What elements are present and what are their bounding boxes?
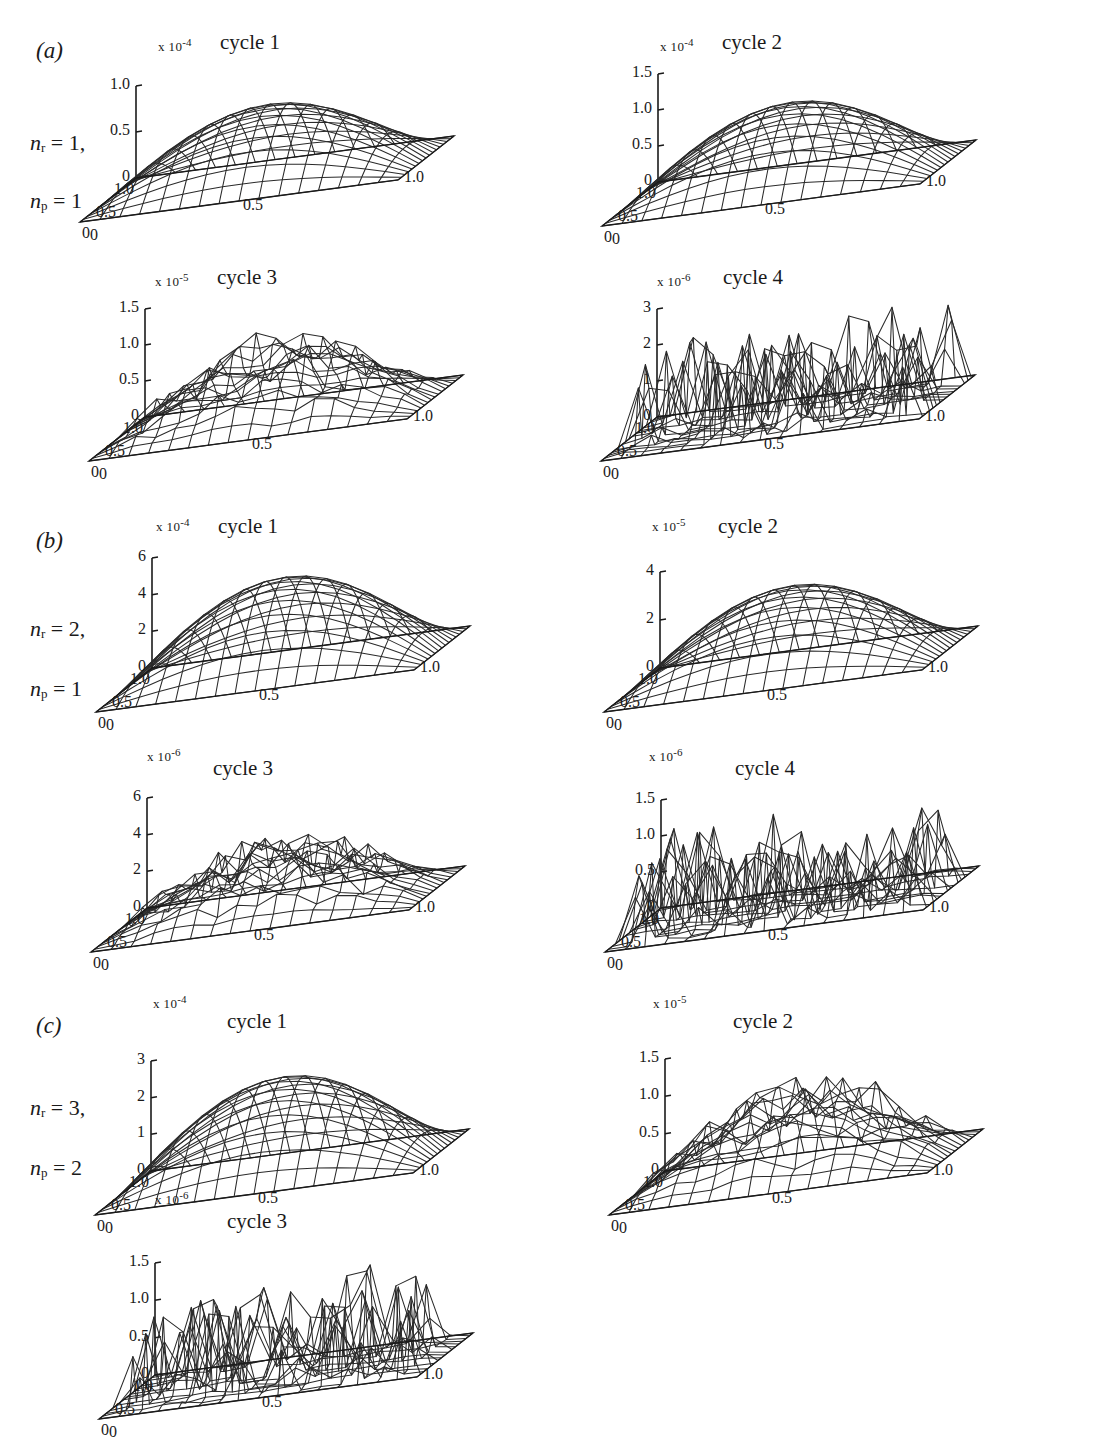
x-tick-label-left: 0.5 xyxy=(81,442,125,460)
variable-value: = 1, xyxy=(51,130,85,155)
x-tick-label-left: 0.5 xyxy=(88,693,132,711)
z-tick-label: 1.0 xyxy=(605,825,655,843)
x-tick-label-left: 0 xyxy=(576,230,620,248)
panel-tag-a: (a) xyxy=(36,38,63,64)
x-tick-label-left: 0 xyxy=(579,956,623,974)
variable-symbol: n xyxy=(30,130,41,155)
x-tick-label-left: 1.0 xyxy=(90,180,134,198)
variable-value: = 1 xyxy=(53,188,82,213)
x-tick-label-right: 0 xyxy=(611,1217,619,1235)
z-axis xyxy=(145,308,151,417)
z-tick-label: 1.0 xyxy=(609,1085,659,1103)
x-tick-label-right: 0.5 xyxy=(254,926,274,944)
surface-mesh xyxy=(565,742,1015,962)
row-label-np-2: np = 2 xyxy=(30,1155,82,1181)
z-tick-label: 1.0 xyxy=(602,99,652,117)
row-label-nr-0: nr = 1, xyxy=(30,130,85,156)
x-tick-label-right: 1.0 xyxy=(404,168,424,186)
z-tick-label: 1.5 xyxy=(602,63,652,81)
x-tick-label-left: 0.5 xyxy=(91,1400,135,1418)
variable-subscript: p xyxy=(41,686,48,701)
z-tick-label: 3 xyxy=(95,1050,145,1068)
variable-value: = 2 xyxy=(53,1155,82,1180)
x-tick-label-right: 1.0 xyxy=(420,658,440,676)
x-tick-label-left: 0 xyxy=(54,226,98,244)
x-tick-label-left: 1.0 xyxy=(614,670,658,688)
variable-value: = 3, xyxy=(51,1095,85,1120)
row-label-nr-1: nr = 2, xyxy=(30,616,85,642)
x-tick-label-right: 1.0 xyxy=(419,1161,439,1179)
variable-symbol: n xyxy=(30,1095,41,1120)
z-axis xyxy=(136,85,142,178)
variable-symbol: n xyxy=(30,616,41,641)
z-tick-label: 0.5 xyxy=(99,1327,149,1345)
x-tick-label-left: 0 xyxy=(63,465,107,483)
z-tick-label: 0.5 xyxy=(602,135,652,153)
surface-plot-a3: x 10-5cycle 31.51.00.501.00.5000.51.0 xyxy=(55,265,495,480)
surface-plot-c3: x 10-6cycle 31.51.00.501.00.5000.51.0 xyxy=(55,1185,505,1415)
variable-subscript: p xyxy=(41,198,48,213)
z-tick-label: 2 xyxy=(91,860,141,878)
x-tick-label-right: 0.5 xyxy=(765,200,785,218)
panel-tag-b: (b) xyxy=(36,528,63,554)
x-tick-label-left: 0 xyxy=(575,465,619,483)
x-tick-label-left: 0.5 xyxy=(594,207,638,225)
z-axis xyxy=(660,571,666,668)
z-tick-label: 6 xyxy=(91,787,141,805)
x-tick-label-right: 0 xyxy=(82,224,90,242)
z-tick-label: 1.5 xyxy=(89,298,139,316)
x-tick-label-left: 0 xyxy=(70,716,114,734)
variable-subscript: p xyxy=(41,1165,48,1180)
surface-plot-c2: x 10-5cycle 21.51.00.501.00.5000.51.0 xyxy=(565,993,1015,1218)
z-axis xyxy=(657,308,663,417)
x-tick-label-right: 1.0 xyxy=(928,658,948,676)
x-tick-label-right: 1.0 xyxy=(933,1161,953,1179)
surface-plot-b1: x 10-4cycle 164201.00.5000.51.0 xyxy=(60,510,500,730)
z-tick-label: 2 xyxy=(96,620,146,638)
z-tick-label: 4 xyxy=(96,584,146,602)
z-tick-label: 2 xyxy=(604,609,654,627)
x-tick-label-left: 1.0 xyxy=(106,670,150,688)
z-axis xyxy=(147,797,153,908)
variable-value: = 1 xyxy=(53,676,82,701)
x-tick-label-right: 0.5 xyxy=(767,686,787,704)
row-label-np-0: np = 1 xyxy=(30,188,82,214)
x-tick-label-right: 0 xyxy=(98,714,106,732)
z-tick-label: 0.5 xyxy=(605,861,655,879)
x-tick-label-right: 1.0 xyxy=(926,172,946,190)
z-axis xyxy=(665,1058,671,1171)
z-tick-label: 4 xyxy=(604,561,654,579)
x-tick-label-left: 0 xyxy=(65,956,109,974)
x-tick-label-left: 0 xyxy=(578,716,622,734)
x-tick-label-right: 1.0 xyxy=(415,898,435,916)
x-tick-label-left: 1.0 xyxy=(109,1377,153,1395)
surface-plot-a1: x 10-4cycle 11.00.501.00.5000.51.0 xyxy=(60,30,490,245)
surface-plot-b2: x 10-5cycle 24201.00.5000.51.0 xyxy=(570,510,1010,730)
x-tick-label-right: 0 xyxy=(607,954,615,972)
row-label-np-1: np = 1 xyxy=(30,676,82,702)
x-tick-label-left: 1.0 xyxy=(615,910,659,928)
z-tick-label: 4 xyxy=(91,824,141,842)
x-tick-label-left: 1.0 xyxy=(611,419,655,437)
z-tick-label: 0.5 xyxy=(80,121,130,139)
x-tick-label-right: 0 xyxy=(93,954,101,972)
z-tick-label: 1.5 xyxy=(99,1252,149,1270)
x-tick-label-left: 0.5 xyxy=(83,933,127,951)
x-tick-label-left: 0 xyxy=(73,1423,117,1441)
x-tick-label-right: 0.5 xyxy=(262,1393,282,1411)
z-tick-label: 2 xyxy=(95,1087,145,1105)
x-tick-label-right: 0 xyxy=(606,714,614,732)
variable-symbol: n xyxy=(30,1155,41,1180)
panel-tag-c: (c) xyxy=(36,1013,62,1039)
x-tick-label-right: 0 xyxy=(91,463,99,481)
x-tick-label-left: 0 xyxy=(583,1219,627,1237)
z-tick-label: 0.5 xyxy=(89,370,139,388)
row-label-nr-2: nr = 3, xyxy=(30,1095,85,1121)
x-tick-label-right: 1.0 xyxy=(925,407,945,425)
z-axis xyxy=(658,73,664,182)
x-tick-label-right: 1.0 xyxy=(413,407,433,425)
variable-symbol: n xyxy=(30,188,41,213)
x-tick-label-right: 0.5 xyxy=(243,196,263,214)
x-tick-label-left: 0.5 xyxy=(593,442,637,460)
z-axis xyxy=(151,1060,157,1171)
